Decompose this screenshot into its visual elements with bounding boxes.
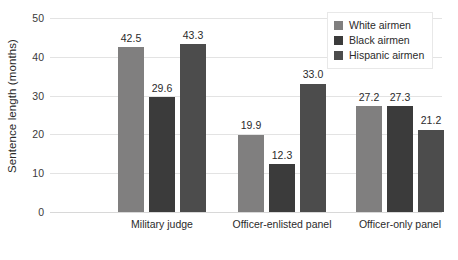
x-axis-tick-labels: Military judgeOfficer-enlisted panelOffi… [50,218,442,240]
legend-swatch-icon [334,51,343,60]
bar-chart-figure: Sentence length (months) 01020304050 42.… [0,0,458,260]
bar-slot: 12.3 [269,18,295,212]
legend-swatch-icon [334,36,343,45]
bar[interactable] [269,164,295,212]
bar-value-label: 43.3 [183,30,203,41]
legend: White airmenBlack airmenHispanic airmen [327,12,433,69]
bar-slot: 19.9 [238,18,264,212]
legend-item[interactable]: Hispanic airmen [334,48,424,63]
legend-swatch-icon [334,21,343,30]
bar[interactable] [149,97,175,212]
x-axis-tick-label: Military judge [131,218,193,230]
y-axis-tick-label: 30 [22,90,44,102]
bar-slot: 42.5 [118,18,144,212]
y-axis-tick-label: 0 [22,206,44,218]
bar-value-label: 42.5 [121,33,141,44]
bar[interactable] [180,44,206,212]
bar-slot: 43.3 [180,18,206,212]
bar-value-label: 33.0 [303,69,323,80]
bar-value-label: 19.9 [241,120,261,131]
bar[interactable] [238,135,264,212]
legend-item-label: White airmen [349,20,411,31]
bar-group: 19.912.333.0 [238,18,326,212]
x-axis-tick-label: Officer-only panel [359,218,441,230]
y-axis-tick-labels: 01020304050 [22,0,44,260]
bar-slot: 29.6 [149,18,175,212]
legend-item-label: Black airmen [349,35,410,46]
bar-value-label: 27.3 [390,92,410,103]
bar-value-label: 29.6 [152,83,172,94]
bar-group: 42.529.643.3 [118,18,206,212]
legend-item[interactable]: Black airmen [334,33,424,48]
y-axis-tick-label: 50 [22,12,44,24]
legend-item[interactable]: White airmen [334,18,424,33]
y-axis-title-text: Sentence length (months) [6,39,18,173]
x-axis-tick-label: Officer-enlisted panel [232,218,331,230]
y-axis-tick-label: 10 [22,167,44,179]
legend-item-label: Hispanic airmen [349,50,424,61]
gridline [50,212,442,213]
bar[interactable] [387,106,413,212]
bar[interactable] [418,130,444,212]
bar-value-label: 27.2 [359,92,379,103]
bar[interactable] [356,106,382,212]
bar-value-label: 21.2 [421,115,441,126]
bar[interactable] [118,47,144,212]
y-axis-tick-label: 20 [22,128,44,140]
bar-value-label: 12.3 [272,150,292,161]
bar-slot: 33.0 [300,18,326,212]
y-axis-tick-label: 40 [22,51,44,63]
bar[interactable] [300,84,326,212]
y-axis-title: Sentence length (months) [0,0,24,212]
